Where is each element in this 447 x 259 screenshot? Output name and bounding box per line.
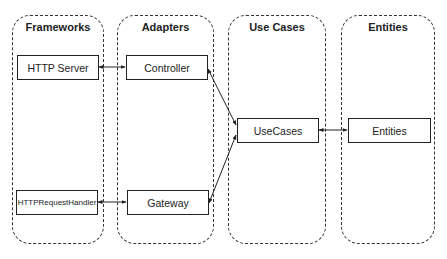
edge-usecases-gateway — [209, 135, 236, 203]
node-gateway: Gateway — [127, 190, 209, 215]
edge-usecases-controller — [208, 69, 236, 125]
node-entities: Entities — [348, 118, 431, 143]
node-usecases: UseCases — [237, 118, 319, 143]
node-http-server: HTTP Server — [17, 55, 99, 80]
node-http-request-handler: HTTPRequestHandler — [16, 190, 98, 215]
node-controller: Controller — [126, 55, 208, 80]
